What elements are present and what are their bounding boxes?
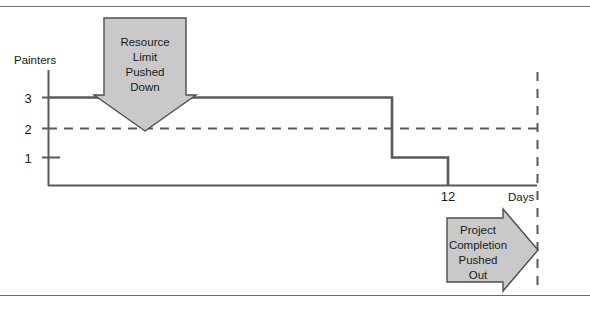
resource-limit-annotation: Resource Limit Pushed Down [94,18,196,131]
down-arrow-line-4: Down [130,81,159,93]
right-arrow-line-2: Completion [449,239,507,251]
y-tick-label-1: 1 [24,151,31,166]
y-tick-label-2: 2 [24,122,31,137]
right-arrow-line-1: Project [460,224,497,236]
y-axis-title: Painters [14,54,56,66]
x-axis-title: Days [508,191,534,203]
figure-container: Painters Days 3 2 1 12 Resource Limit Pu… [0,0,590,312]
project-completion-annotation: Project Completion Pushed Out [447,209,538,291]
resource-usage-step-line [48,98,448,187]
down-arrow-line-3: Pushed [125,66,164,78]
y-tick-label-3: 3 [24,91,31,106]
x-tick-label-12: 12 [441,189,455,204]
down-arrow-line-2: Limit [133,51,158,63]
right-arrow-line-3: Pushed [458,254,497,266]
down-arrow-line-1: Resource [120,36,169,48]
right-arrow-line-4: Out [469,269,488,281]
resource-leveling-chart: Painters Days 3 2 1 12 Resource Limit Pu… [0,0,590,312]
